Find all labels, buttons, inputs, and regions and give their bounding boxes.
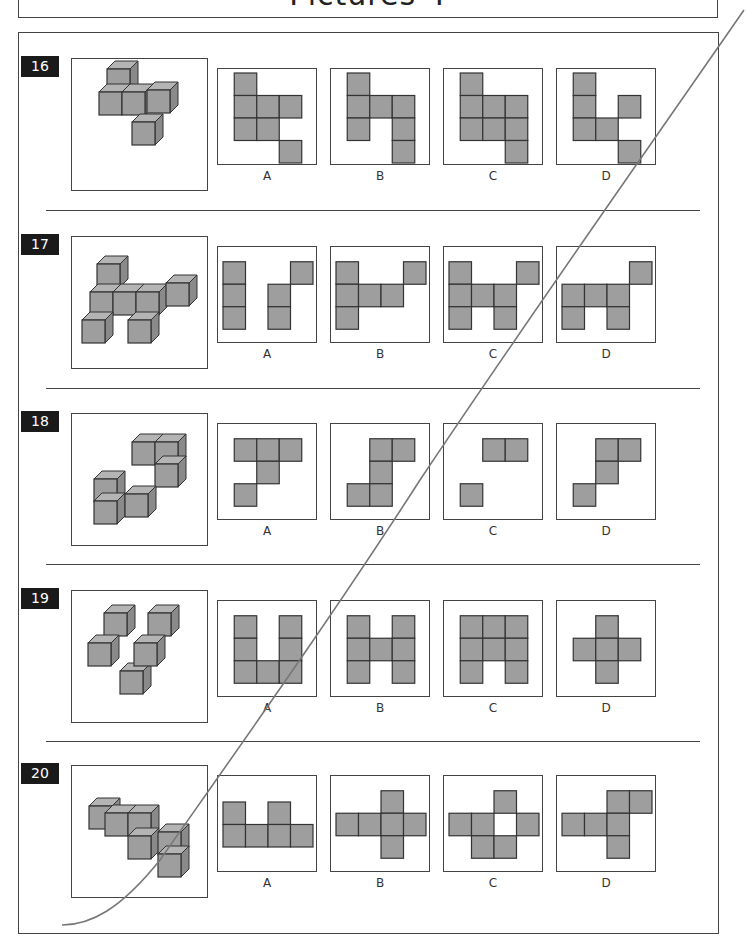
option-label: B bbox=[330, 347, 430, 361]
option-label: C bbox=[443, 701, 543, 715]
question-number: 19 bbox=[21, 588, 59, 609]
option-d[interactable] bbox=[556, 775, 656, 872]
net-diagram-icon bbox=[331, 776, 431, 873]
net-diagram-icon bbox=[218, 776, 318, 873]
question-20: 20 A B C D bbox=[19, 763, 718, 923]
question-16: 16 A B C D bbox=[19, 56, 718, 216]
cube-figure bbox=[71, 236, 208, 369]
option-b[interactable] bbox=[330, 775, 430, 872]
net-diagram-icon bbox=[444, 424, 544, 521]
cube-arrangement-icon bbox=[72, 414, 209, 547]
option-d[interactable] bbox=[556, 246, 656, 343]
net-diagram-icon bbox=[444, 601, 544, 698]
page-title: Pictures 4 bbox=[19, 0, 717, 12]
option-b[interactable] bbox=[330, 423, 430, 520]
cube-arrangement-icon bbox=[72, 591, 209, 724]
option-label: C bbox=[443, 169, 543, 183]
net-diagram-icon bbox=[218, 601, 318, 698]
cube-figure bbox=[71, 590, 208, 723]
title-box: Pictures 4 bbox=[18, 0, 718, 18]
option-d[interactable] bbox=[556, 423, 656, 520]
net-diagram-icon bbox=[444, 69, 544, 166]
cube-figure bbox=[71, 765, 208, 898]
net-diagram-icon bbox=[557, 601, 657, 698]
net-diagram-icon bbox=[444, 776, 544, 873]
option-label: D bbox=[556, 876, 656, 890]
cube-arrangement-icon bbox=[72, 59, 209, 192]
option-c[interactable] bbox=[443, 246, 543, 343]
option-a[interactable] bbox=[217, 246, 317, 343]
option-b[interactable] bbox=[330, 68, 430, 165]
option-d[interactable] bbox=[556, 68, 656, 165]
option-label: B bbox=[330, 524, 430, 538]
net-diagram-icon bbox=[218, 424, 318, 521]
question-19: 19 A B C D bbox=[19, 588, 718, 748]
question-number: 20 bbox=[21, 763, 59, 784]
cube-arrangement-icon bbox=[72, 237, 209, 370]
net-diagram-icon bbox=[331, 424, 431, 521]
option-label: D bbox=[556, 701, 656, 715]
net-diagram-icon bbox=[557, 424, 657, 521]
net-diagram-icon bbox=[331, 601, 431, 698]
net-diagram-icon bbox=[218, 69, 318, 166]
net-diagram-icon bbox=[218, 247, 318, 344]
net-diagram-icon bbox=[557, 69, 657, 166]
question-18: 18 A B C D bbox=[19, 411, 718, 571]
option-label: A bbox=[217, 347, 317, 361]
divider bbox=[46, 741, 700, 742]
option-c[interactable] bbox=[443, 68, 543, 165]
question-number: 16 bbox=[21, 56, 59, 77]
option-label: A bbox=[217, 701, 317, 715]
option-a[interactable] bbox=[217, 68, 317, 165]
option-a[interactable] bbox=[217, 600, 317, 697]
option-label: B bbox=[330, 876, 430, 890]
net-diagram-icon bbox=[331, 247, 431, 344]
option-c[interactable] bbox=[443, 775, 543, 872]
cube-figure bbox=[71, 413, 208, 546]
option-label: D bbox=[556, 169, 656, 183]
option-b[interactable] bbox=[330, 246, 430, 343]
cube-figure bbox=[71, 58, 208, 191]
option-a[interactable] bbox=[217, 423, 317, 520]
question-number: 18 bbox=[21, 411, 59, 432]
option-label: C bbox=[443, 876, 543, 890]
divider bbox=[46, 564, 700, 565]
question-number: 17 bbox=[21, 234, 59, 255]
option-label: A bbox=[217, 169, 317, 183]
divider bbox=[46, 388, 700, 389]
option-label: B bbox=[330, 701, 430, 715]
option-label: D bbox=[556, 347, 656, 361]
divider bbox=[46, 210, 700, 211]
net-diagram-icon bbox=[557, 776, 657, 873]
option-a[interactable] bbox=[217, 775, 317, 872]
net-diagram-icon bbox=[557, 247, 657, 344]
cube-arrangement-icon bbox=[72, 766, 209, 899]
option-label: C bbox=[443, 347, 543, 361]
option-d[interactable] bbox=[556, 600, 656, 697]
question-17: 17 A B C D bbox=[19, 234, 718, 394]
option-c[interactable] bbox=[443, 600, 543, 697]
option-label: A bbox=[217, 876, 317, 890]
net-diagram-icon bbox=[331, 69, 431, 166]
option-label: C bbox=[443, 524, 543, 538]
option-b[interactable] bbox=[330, 600, 430, 697]
worksheet-frame: 16 A B C D 17 A B C D 18 bbox=[18, 32, 719, 934]
option-c[interactable] bbox=[443, 423, 543, 520]
option-label: D bbox=[556, 524, 656, 538]
option-label: B bbox=[330, 169, 430, 183]
net-diagram-icon bbox=[444, 247, 544, 344]
option-label: A bbox=[217, 524, 317, 538]
